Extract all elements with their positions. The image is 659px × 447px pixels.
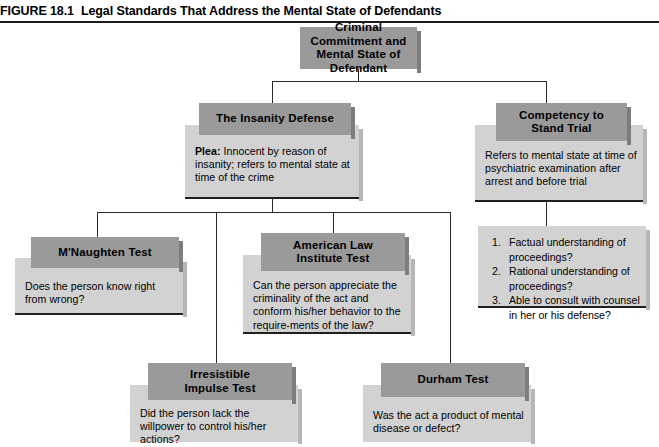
node-shadow (531, 389, 535, 444)
list-item-number: 2. (492, 264, 509, 279)
node-bottom-rule (15, 313, 183, 315)
node-criminal-commitment[interactable]: Criminal Commitment and Mental State of … (300, 27, 417, 69)
figure-title: FIGURE 18.1 Legal Standards That Address… (0, 0, 659, 21)
node-bottom-rule (243, 332, 411, 334)
connector-level2-bar (97, 212, 450, 213)
node-competency-stand-trial[interactable]: Competency to Stand Trial Refers to ment… (475, 103, 650, 202)
node-bottom-rule (478, 306, 646, 308)
connector-competency-stem (546, 202, 547, 226)
connector-to-durham (450, 212, 451, 363)
node-shadow (179, 241, 183, 272)
node-american-law-institute-test[interactable]: American Law Institute Test Can the pers… (243, 233, 418, 334)
figure-title-text: Legal Standards That Address the Mental … (81, 4, 441, 18)
list-item: 1. Factual understanding of proceedings? (492, 235, 640, 264)
node-shadow (359, 129, 363, 201)
node-irresistible-title-line1: Irresistible (190, 368, 250, 382)
connector-level1-bar (272, 81, 546, 82)
node-durham-test-title: Durham Test (417, 373, 488, 387)
node-irresistible-title-line2: Impulse Test (184, 382, 255, 396)
node-competency-title-line1: Competency to (519, 109, 604, 123)
plea-label: Plea: (195, 145, 221, 157)
node-shadow (298, 389, 302, 444)
competency-criteria-list: 1. Factual understanding of proceedings?… (492, 235, 640, 323)
node-ali-test-title-line1: American Law (293, 239, 373, 253)
node-shadow (411, 259, 415, 336)
node-competency-body-text: Refers to mental state at time of psychi… (485, 149, 638, 189)
node-competency-criteria: 1. Factual understanding of proceedings?… (478, 226, 646, 308)
node-irresistible-impulse-header: Irresistible Impulse Test (148, 363, 292, 400)
node-competency-title-line2: Stand Trial (531, 122, 591, 136)
node-shadow (646, 230, 650, 310)
figure-number: FIGURE 18.1 (0, 4, 74, 18)
list-item-text: Rational understanding of proceedings? (509, 264, 640, 293)
node-criminal-commitment-title-line1: Criminal Commitment and (300, 21, 417, 48)
connector-to-mnaughten (97, 212, 98, 237)
node-mnaughten-test-header: M'Naughten Test (31, 237, 179, 268)
node-shadow (292, 367, 296, 404)
node-durham-test[interactable]: Durham Test Was the act a product of men… (363, 363, 538, 442)
connector-to-competency (546, 81, 547, 103)
node-insanity-defense-body: Plea: Innocent by reason of insanity; re… (185, 125, 359, 199)
list-item: 2. Rational understanding of proceedings… (492, 264, 640, 293)
node-irresistible-text: Did the person lack the willpower to con… (140, 407, 293, 447)
node-durham-test-header: Durham Test (381, 363, 525, 397)
list-item-text: Factual understanding of proceedings? (509, 235, 640, 264)
connector-to-insanity (272, 81, 273, 103)
list-item-number: 1. (492, 235, 509, 250)
node-ali-test-title-line2: Institute Test (297, 252, 370, 266)
node-insanity-defense-text: Plea: Innocent by reason of insanity; re… (195, 145, 353, 185)
node-criminal-commitment-header: Criminal Commitment and Mental State of … (300, 27, 417, 69)
node-competency-stand-trial-header: Competency to Stand Trial (496, 103, 627, 141)
node-shadow (627, 107, 631, 145)
node-ali-test-header: American Law Institute Test (261, 233, 405, 271)
node-bottom-rule (475, 200, 643, 202)
node-shadow (183, 262, 187, 317)
node-mnaughten-test-title: M'Naughten Test (58, 246, 152, 260)
node-ali-test-text: Can the person appreciate the criminalit… (253, 279, 407, 332)
node-durham-test-text: Was the act a product of mental disease … (373, 409, 525, 435)
node-insanity-defense-header: The Insanity Defense (199, 103, 351, 135)
node-shadow (405, 237, 409, 275)
node-insanity-defense[interactable]: The Insanity Defense Plea: Innocent by r… (185, 103, 365, 199)
node-criminal-commitment-title-line2: Mental State of Defendant (300, 48, 417, 75)
connector-to-ali (333, 212, 334, 233)
node-shadow (643, 129, 647, 204)
node-mnaughten-test[interactable]: M'Naughten Test Does the person know rig… (15, 237, 190, 315)
node-shadow (351, 107, 355, 139)
node-shadow (417, 31, 421, 73)
node-irresistible-impulse-test[interactable]: Irresistible Impulse Test Did the person… (130, 363, 305, 442)
node-bottom-rule (185, 197, 359, 199)
node-mnaughten-test-text: Does the person know right from wrong? (25, 280, 177, 306)
node-insanity-defense-title: The Insanity Defense (216, 112, 334, 126)
node-shadow (525, 367, 529, 401)
connector-to-irresistible (216, 212, 217, 363)
connector-insanity-stem (272, 197, 273, 212)
